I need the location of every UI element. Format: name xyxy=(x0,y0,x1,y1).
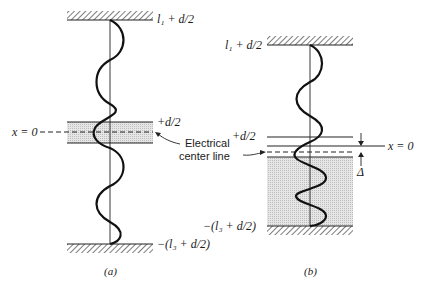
top-boundary-label: l₁ + d/2 xyxy=(157,12,194,26)
arrow-to-b xyxy=(243,153,262,155)
annotation-line-1: Electrical xyxy=(185,137,230,149)
top-boundary-label: l₁ + d/2 xyxy=(225,38,262,52)
annotation-line-2: center line xyxy=(179,150,230,162)
bottom-wall-hatch xyxy=(267,226,353,235)
standing-wave-diagram: l₁ + d/2 +d/2 x = 0 −(l₃ + d/2) (a) Elec… xyxy=(0,0,421,289)
panel-b-caption: (b) xyxy=(304,265,317,278)
top-wall-hatch xyxy=(267,36,353,45)
plus-d2-label: +d/2 xyxy=(232,129,255,143)
arrow-to-a xyxy=(158,134,180,144)
bottom-wall-hatch xyxy=(67,244,153,253)
panel-b: l₁ + d/2 +d/2 x = 0 Δ −(l₃ + d/2) (b) xyxy=(203,36,413,278)
panel-a-caption: (a) xyxy=(104,265,117,278)
panel-a: l₁ + d/2 +d/2 x = 0 −(l₃ + d/2) (a) xyxy=(11,11,210,278)
delta-label: Δ xyxy=(356,165,364,179)
bottom-boundary-label: −(l₃ + d/2) xyxy=(203,219,256,233)
arrowhead-a-icon xyxy=(155,132,161,137)
x-zero-label: x = 0 xyxy=(11,125,37,139)
x-zero-label: x = 0 xyxy=(387,139,413,153)
top-wall-hatch xyxy=(67,11,153,20)
delta-arrowhead-down-icon xyxy=(358,141,364,146)
bottom-boundary-label: −(l₃ + d/2) xyxy=(157,237,210,251)
plus-d2-label: +d/2 xyxy=(157,115,180,129)
arrowhead-b-icon xyxy=(260,150,266,155)
delta-arrowhead-up-icon xyxy=(358,152,364,157)
